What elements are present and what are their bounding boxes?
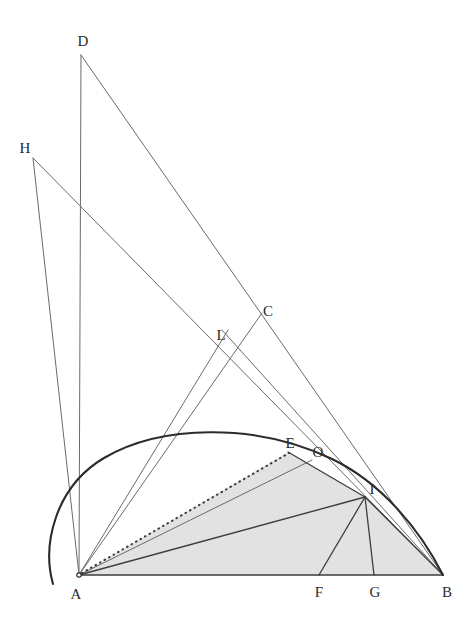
line-A-D	[79, 55, 81, 575]
point-label-O: O	[313, 445, 324, 460]
construction-lines-group	[33, 55, 443, 575]
geometry-figure: A B C D E F G H I L O	[0, 0, 473, 619]
point-label-A: A	[71, 587, 82, 602]
shaded-region-AEIB	[79, 452, 443, 575]
point-label-D: D	[78, 34, 89, 49]
point-label-B: B	[442, 585, 452, 600]
vertex-dot-A	[77, 573, 81, 577]
point-label-F: F	[315, 585, 323, 600]
point-label-G: G	[370, 585, 381, 600]
point-label-C: C	[263, 304, 273, 319]
point-label-E: E	[285, 436, 294, 451]
point-label-L: L	[216, 328, 225, 343]
geometry-canvas	[0, 0, 473, 619]
point-label-I: I	[370, 482, 375, 497]
point-label-H: H	[20, 141, 31, 156]
line-A-H	[33, 158, 79, 575]
